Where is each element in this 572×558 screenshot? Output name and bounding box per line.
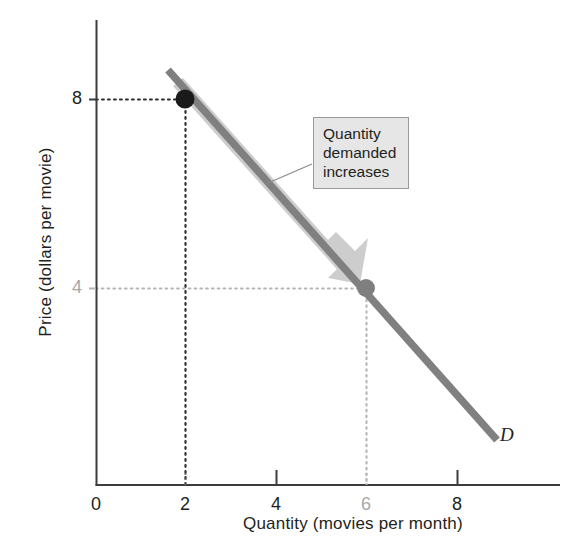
callout-line-1: Quantity [323,124,401,143]
x-tick-label-0: 0 [82,494,110,515]
x-tick-label-4: 4 [262,494,290,515]
demand-curve-label: D [500,424,514,446]
y-axis-title: Price (dollars per movie) [36,132,56,352]
x-tick-label-2: 2 [171,494,199,515]
y-tick-label-4: 4 [58,277,82,298]
x-axis-ticks [186,470,458,485]
y-tick-label-8: 8 [58,88,82,109]
callout-line-2: demanded [323,143,401,162]
point-price-8-quantity-2 [176,90,195,109]
callout-line-3: increases [323,162,401,181]
quantity-demanded-increases-callout: Quantity demanded increases [313,117,409,189]
point-price-4-quantity-6 [357,279,375,297]
callout-leader-line [268,164,312,183]
x-axis-title: Quantity (movies per month) [243,514,463,534]
x-tick-label-6: 6 [352,494,380,515]
chart-canvas [0,0,572,558]
demand-curve-figure: Price (dollars per movie) Quantity (movi… [0,0,572,558]
x-tick-label-8: 8 [443,494,471,515]
y-axis-ticks [89,100,96,289]
